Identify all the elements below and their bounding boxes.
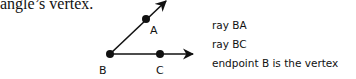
point-b-dot [106, 50, 114, 58]
ray-ba-line [110, 1, 166, 54]
point-a-dot [142, 15, 150, 23]
point-c-dot [156, 50, 164, 58]
note-ray-bc: ray BC [212, 35, 338, 54]
point-b-label: B [99, 64, 107, 77]
ray-notes: ray BA ray BC endpoint B is the vertex [212, 16, 338, 73]
note-ray-ba: ray BA [212, 16, 338, 35]
point-a-label: A [150, 24, 158, 37]
point-c-label: C [156, 64, 164, 77]
note-vertex: endpoint B is the vertex [212, 54, 338, 73]
